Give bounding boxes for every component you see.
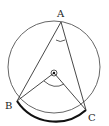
label-a: A — [56, 8, 65, 19]
geometry-diagram: A B C — [0, 0, 109, 126]
center-o-dot — [53, 72, 55, 74]
chord-ac — [61, 22, 86, 110]
radius-ob — [17, 73, 54, 101]
label-c: C — [88, 112, 96, 123]
label-b: B — [5, 100, 12, 111]
angle-arc-a-icon — [56, 40, 65, 42]
angle-arc-o-icon — [44, 81, 64, 86]
chord-ab — [17, 22, 61, 101]
